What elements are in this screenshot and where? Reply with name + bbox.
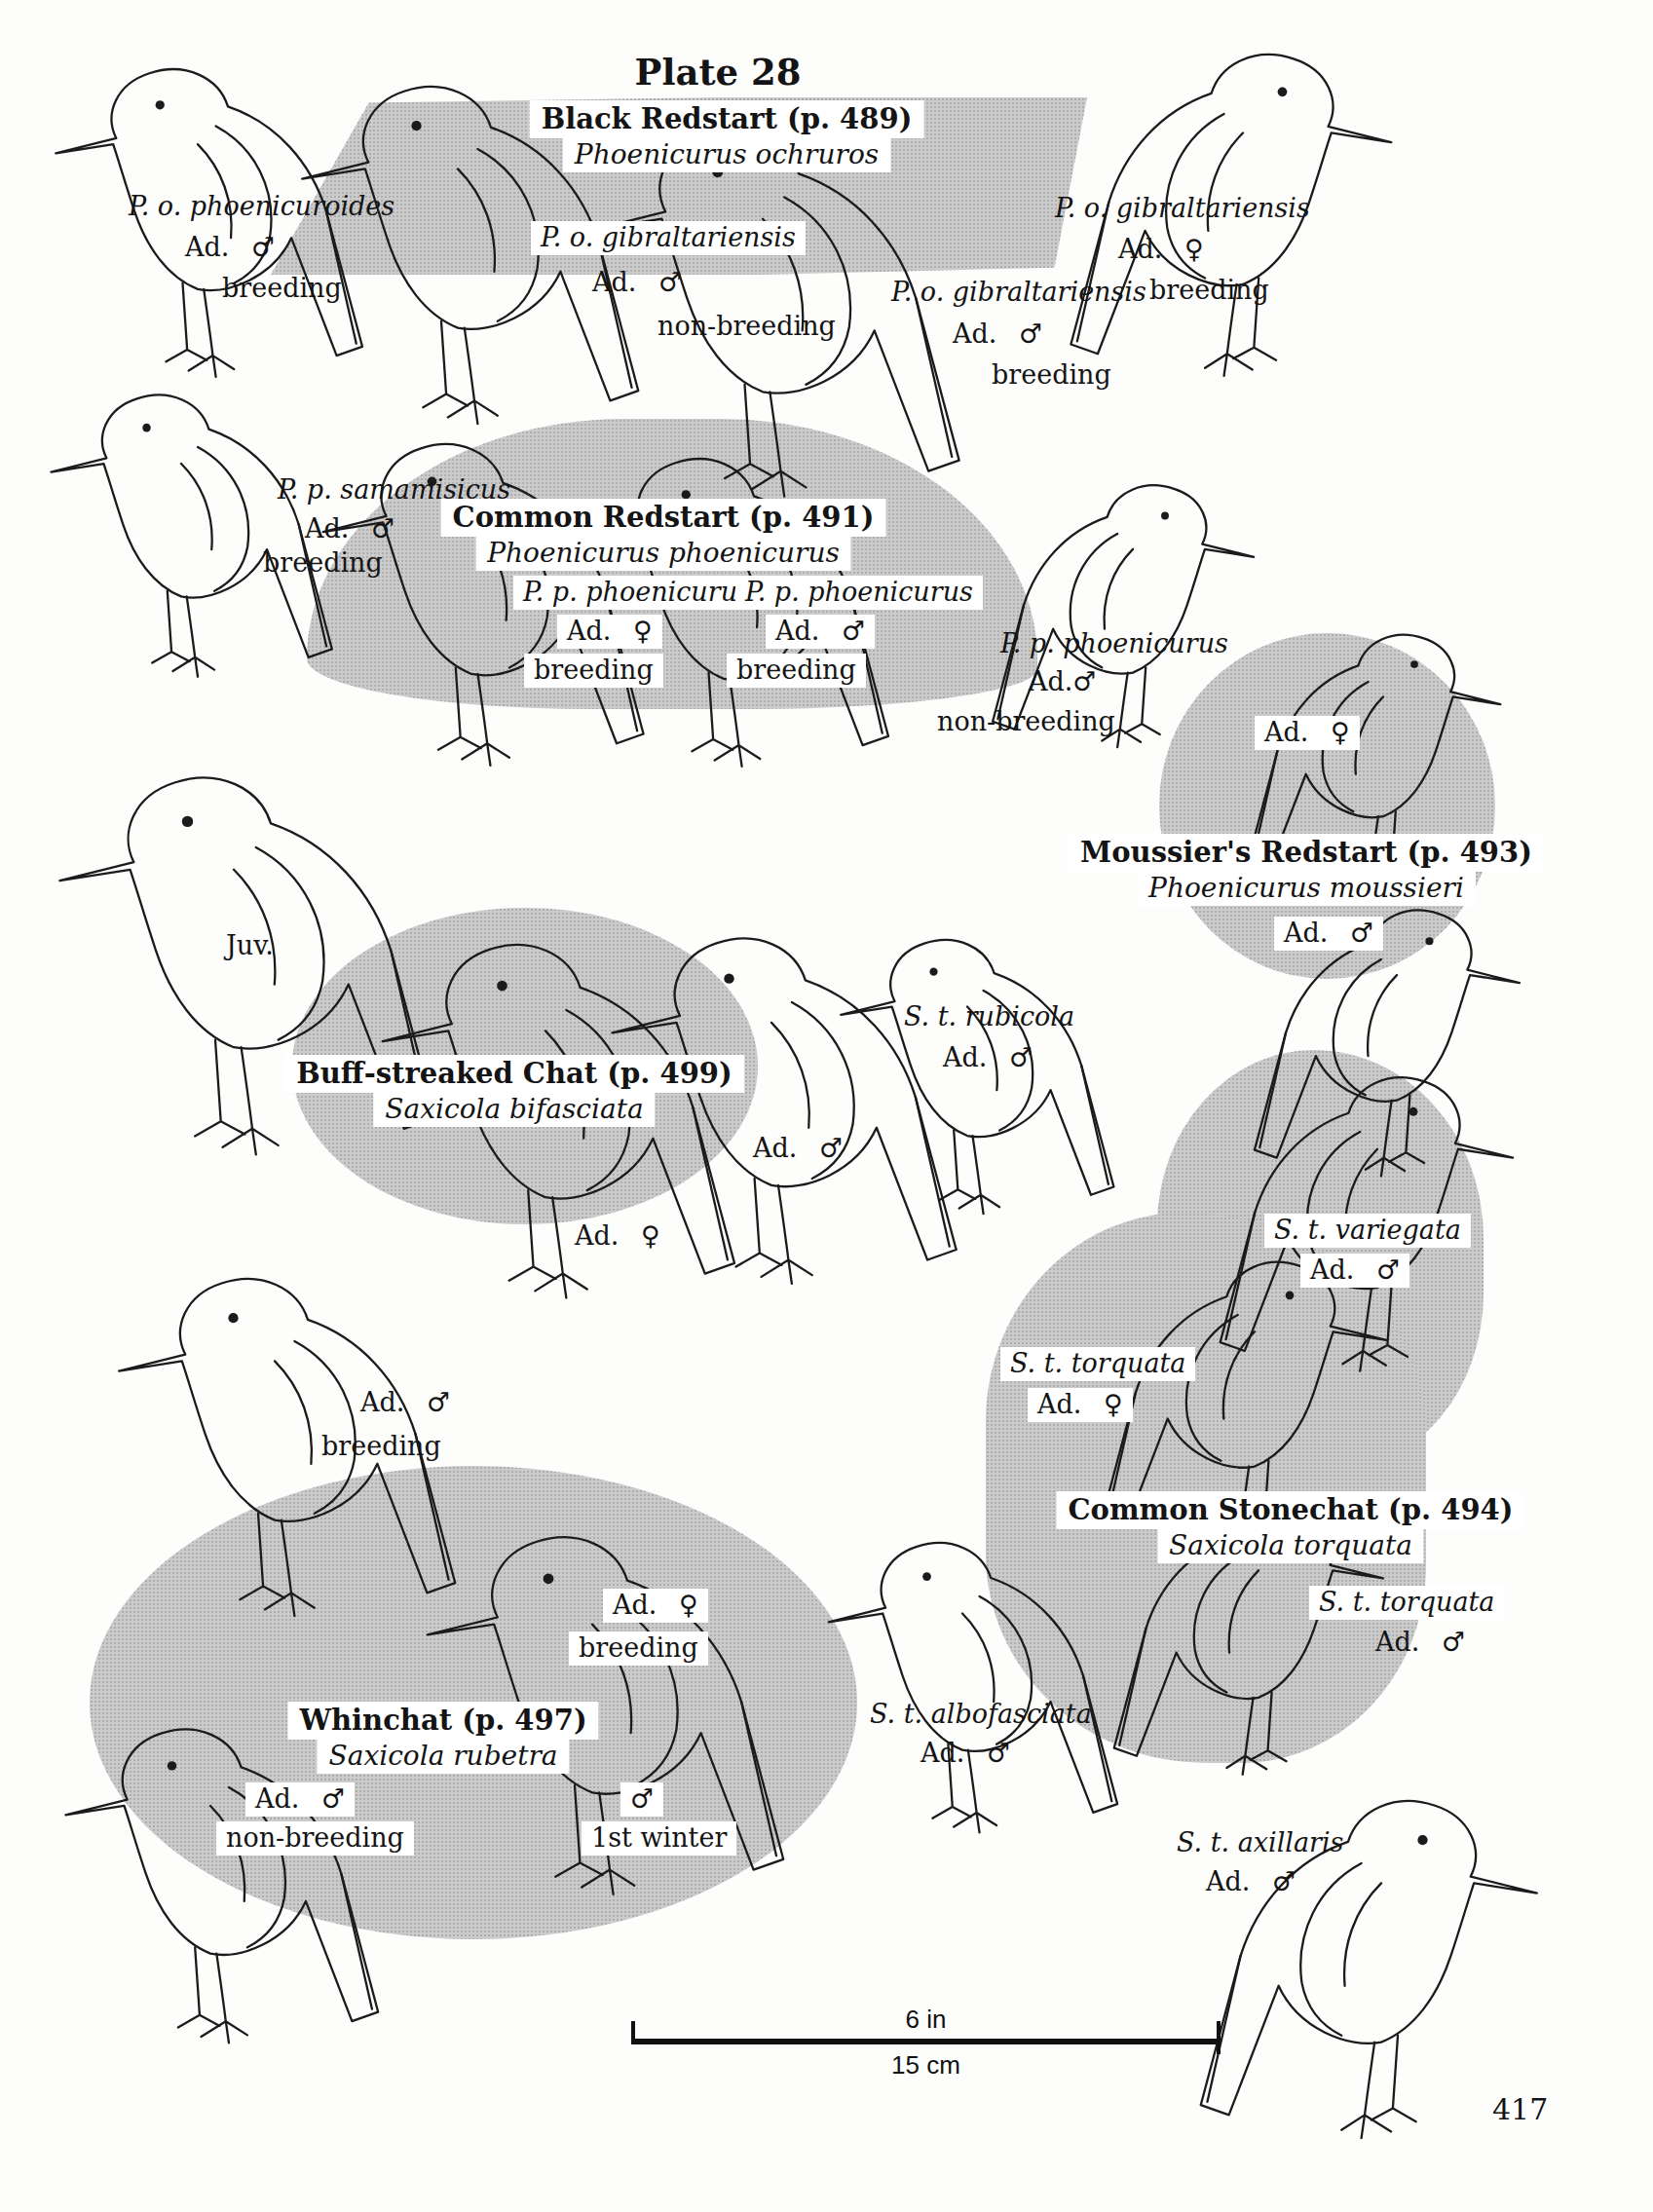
species-scientific-name: Saxicola bifasciata — [373, 1093, 655, 1127]
age-sex-label: Juv. — [226, 930, 274, 961]
species-scientific-name: Phoenicurus moussieri — [1137, 872, 1476, 906]
age-sex-label: Ad. ♀ — [1255, 716, 1360, 750]
species-header-whinchat: Whinchat (p. 497) Saxicola rubetra — [287, 1702, 598, 1774]
subspecies-label: P. o. gibraltariensis — [1055, 193, 1310, 224]
age-sex-label: ♂ — [620, 1782, 663, 1817]
subspecies-label: S. t. axillaris — [1177, 1827, 1343, 1858]
subspecies-label: P. p. phoenicurus — [1000, 628, 1228, 659]
species-scientific-name: Phoenicurus phoenicurus — [475, 537, 851, 571]
status-label: breeding — [263, 547, 383, 579]
age-sex-label: Ad. ♂ — [1206, 1866, 1296, 1897]
age-sex-label: Ad. ♂ — [245, 1782, 355, 1817]
age-sex-label: Ad. ♂ — [943, 1042, 1033, 1073]
status-label: breeding — [524, 654, 663, 688]
species-header-moussiers-redstart: Moussier's Redstart (p. 493) Phoenicurus… — [1069, 834, 1544, 906]
field-guide-plate: Plate 28 Black Redstart (p. 489) Phoenic… — [0, 0, 1653, 2212]
age-sex-label: Ad. ♂ — [1375, 1627, 1465, 1658]
status-label: non-breeding — [216, 1821, 414, 1856]
age-sex-label: Ad. ♂ — [305, 513, 394, 544]
subspecies-label: P. o. gibraltariensis — [891, 277, 1146, 308]
species-scientific-name: Saxicola rubetra — [318, 1740, 570, 1774]
age-sex-label: Ad.♂ — [1029, 666, 1097, 697]
species-header-common-redstart: Common Redstart (p. 491) Phoenicurus pho… — [441, 499, 886, 571]
age-sex-label: Ad. ♀ — [1028, 1388, 1133, 1422]
bird-outline — [65, 1730, 378, 2043]
age-sex-label: Ad. ♀ — [1118, 234, 1204, 265]
bird-outline — [52, 395, 332, 677]
subspecies-label: P. p. samamisicus — [278, 474, 510, 506]
species-header-black-redstart: Black Redstart (p. 489) Phoenicurus ochr… — [530, 100, 924, 172]
scale-bar-line — [631, 2039, 1221, 2044]
species-common-name: Moussier's Redstart (p. 493) — [1069, 834, 1544, 872]
scale-label-centimeters: 15 cm — [631, 2050, 1221, 2081]
bird-outline — [829, 1543, 1117, 1832]
species-common-name: Black Redstart (p. 489) — [530, 100, 924, 138]
status-label: breeding — [222, 273, 342, 304]
species-header-common-stonechat: Common Stonechat (p. 494) Saxicola torqu… — [1056, 1491, 1524, 1563]
age-sex-label: Ad. ♀ — [603, 1589, 708, 1623]
scale-bar: 6 in 15 cm — [631, 2005, 1221, 2081]
subspecies-label: S. t. torquata — [1000, 1347, 1195, 1381]
scale-label-inches: 6 in — [631, 2005, 1221, 2035]
plate-title: Plate 28 — [635, 51, 802, 94]
species-scientific-name: Phoenicurus ochruros — [563, 138, 890, 172]
status-label: breeding — [1149, 275, 1269, 306]
status-label: breeding — [569, 1631, 708, 1666]
age-sex-label: Ad. ♂ — [753, 1133, 843, 1164]
subspecies-label: S. t. variegata — [1264, 1214, 1471, 1248]
subspecies-label: S. t. rubicola — [904, 1001, 1074, 1032]
subspecies-label: P. p. phoenicurus — [735, 576, 983, 610]
species-scientific-name: Saxicola torquata — [1157, 1529, 1424, 1563]
subspecies-label: P. o. gibraltariensis — [531, 221, 806, 255]
age-sex-label: Ad. ♂ — [920, 1738, 1010, 1769]
age-sex-label: Ad. ♀ — [557, 615, 662, 649]
status-label: 1st winter — [582, 1821, 736, 1856]
species-header-buff-streaked-chat: Buff-streaked Chat (p. 499) Saxicola bif… — [284, 1055, 744, 1127]
age-sex-label: Ad. ♂ — [185, 232, 275, 263]
subspecies-label: P. o. phoenicuroides — [129, 191, 394, 222]
page-number: 417 — [1492, 2092, 1548, 2126]
species-common-name: Whinchat (p. 497) — [287, 1702, 598, 1740]
status-label: breeding — [727, 654, 866, 688]
subspecies-label: S. t. albofasciata — [870, 1699, 1092, 1730]
status-label: non-breeding — [657, 311, 836, 342]
age-sex-label: Ad. ♂ — [766, 615, 875, 649]
bird-outline — [56, 69, 362, 377]
age-sex-label: Ad. ♂ — [1274, 917, 1383, 951]
age-sex-label: Ad. ♂ — [360, 1387, 450, 1418]
status-label: breeding — [992, 359, 1111, 391]
bird-outline — [841, 940, 1113, 1214]
age-sex-label: Ad. ♂ — [1300, 1254, 1409, 1288]
age-sex-label: Ad. ♂ — [592, 267, 682, 298]
subspecies-label: S. t. torquata — [1309, 1586, 1504, 1620]
status-label: non-breeding — [937, 706, 1115, 737]
species-common-name: Buff-streaked Chat (p. 499) — [284, 1055, 744, 1093]
age-sex-label: Ad. ♂ — [953, 319, 1042, 350]
subspecies-label: P. p. phoenicurus — [513, 576, 761, 610]
status-label: breeding — [321, 1431, 441, 1462]
age-sex-label: Ad. ♀ — [575, 1220, 660, 1252]
species-common-name: Common Stonechat (p. 494) — [1056, 1491, 1524, 1529]
